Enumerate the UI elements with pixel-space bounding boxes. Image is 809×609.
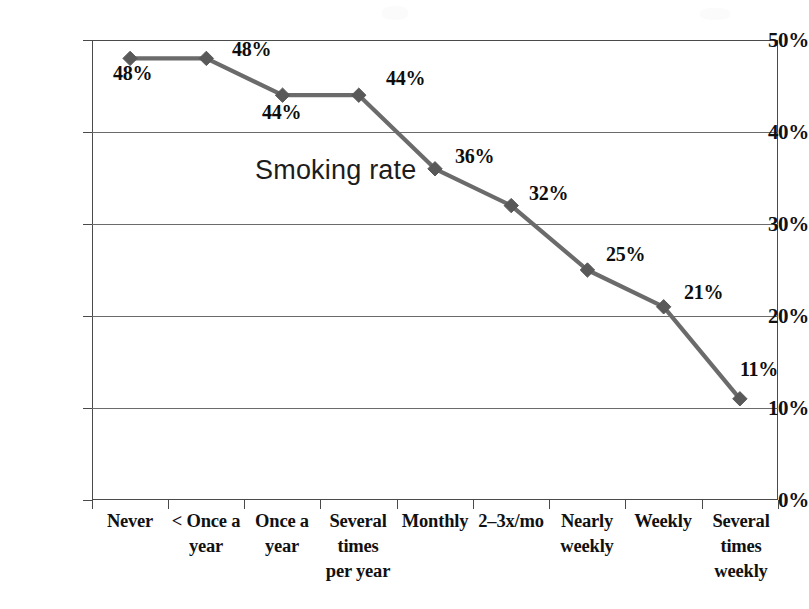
point-label-several-times-per-year: 44% (386, 67, 425, 90)
gridline-20 (92, 316, 778, 317)
point-label-less-once-a-year: 48% (232, 38, 271, 61)
gridline-40 (92, 132, 778, 133)
x-category-nearly-weekly: Nearly weekly (549, 509, 625, 559)
y-axis-label-30: 30% (737, 212, 809, 237)
x-tick-7 (625, 500, 626, 509)
scan-artifact (382, 6, 408, 20)
y-tick-50 (83, 40, 92, 41)
gridline-30 (92, 224, 778, 225)
x-tick-2 (244, 500, 245, 509)
series-annotation-label: Smoking rate (255, 155, 416, 186)
plot-area (92, 40, 778, 500)
x-tick-9 (778, 500, 779, 509)
point-label-never: 48% (113, 62, 152, 85)
point-label-nearly-weekly: 25% (606, 243, 645, 266)
x-category-several-times-weekly: Several times weekly (700, 509, 782, 584)
y-axis-label-40: 40% (737, 120, 809, 145)
x-tick-6 (549, 500, 550, 509)
x-tick-1 (168, 500, 169, 509)
x-tick-8 (702, 500, 703, 509)
point-label-weekly: 21% (684, 281, 723, 304)
x-category-several-times-per-year: Several times per year (316, 509, 400, 584)
y-axis-label-50: 50% (737, 28, 809, 53)
x-category-weekly: Weekly (625, 509, 701, 534)
point-label-once-a-year: 44% (262, 101, 301, 124)
x-category-once-a-year: Once a year (244, 509, 320, 559)
x-tick-5 (473, 500, 474, 509)
x-category-2-3x-mo: 2–3x/mo (471, 509, 551, 534)
point-label-2-3x-mo: 32% (529, 182, 568, 205)
scan-artifact (700, 8, 730, 20)
y-tick-20 (83, 316, 92, 317)
x-tick-0 (92, 500, 93, 509)
y-tick-40 (83, 132, 92, 133)
smoking-rate-line-chart: 50% 40% 30% 20% 10% 0% Never < Once a ye… (0, 0, 809, 609)
y-axis-label-20: 20% (737, 304, 809, 329)
x-tick-4 (397, 500, 398, 509)
point-label-monthly: 36% (455, 145, 494, 168)
y-tick-0 (83, 500, 92, 501)
point-label-several-times-weekly: 11% (740, 358, 778, 381)
x-category-less-once-a-year: < Once a year (164, 509, 248, 559)
y-axis-label-10: 10% (737, 396, 809, 421)
x-category-monthly: Monthly (395, 509, 475, 534)
x-tick-3 (320, 500, 321, 509)
gridline-10 (92, 408, 778, 409)
y-tick-30 (83, 224, 92, 225)
x-category-never: Never (92, 509, 168, 534)
y-tick-10 (83, 408, 92, 409)
